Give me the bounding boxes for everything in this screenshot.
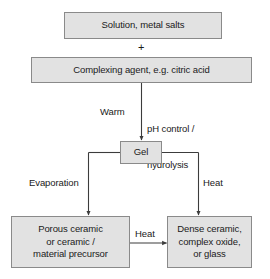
node-dense-ceramic-line3: or glass xyxy=(193,248,225,259)
node-porous-ceramic-line1: Porous ceramic xyxy=(38,223,103,234)
node-porous-ceramic-line3: material precursor xyxy=(33,248,108,259)
node-dense-ceramic-label: Dense ceramic, complex oxide, or glass xyxy=(168,223,251,261)
flowchart-canvas: Solution, metal salts + Complexing agent… xyxy=(0,0,270,279)
node-solution-metal-salts[interactable]: Solution, metal salts xyxy=(64,12,222,39)
node-porous-ceramic-label: Porous ceramic or ceramic / material pre… xyxy=(12,223,129,261)
node-complexing-agent[interactable]: Complexing agent, e.g. citric acid xyxy=(31,57,252,83)
edge-label-heat-right: Heat xyxy=(203,177,223,189)
node-complexing-agent-label: Complexing agent, e.g. citric acid xyxy=(32,64,251,77)
node-solution-metal-salts-label: Solution, metal salts xyxy=(65,19,221,32)
node-porous-ceramic[interactable]: Porous ceramic or ceramic / material pre… xyxy=(11,216,130,268)
edge-label-heat-middle: Heat xyxy=(135,228,155,240)
node-dense-ceramic[interactable]: Dense ceramic, complex oxide, or glass xyxy=(167,216,252,268)
edge-label-warm: Warm xyxy=(100,106,125,118)
node-gel[interactable]: Gel xyxy=(120,141,162,164)
edge-label-evaporation: Evaporation xyxy=(29,177,79,189)
node-porous-ceramic-line2: or ceramic / xyxy=(46,236,94,247)
plus-symbol: + xyxy=(138,42,144,53)
node-dense-ceramic-line2: complex oxide, xyxy=(179,236,241,247)
node-dense-ceramic-line1: Dense ceramic, xyxy=(177,223,242,234)
edge-label-ph-control-line1: pH control / xyxy=(147,123,194,135)
node-gel-label: Gel xyxy=(121,146,161,159)
